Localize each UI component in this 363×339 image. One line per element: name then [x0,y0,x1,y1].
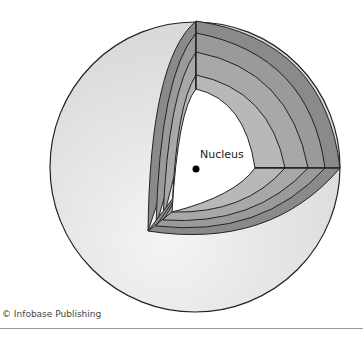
divider-rule [0,328,363,329]
nucleus-dot [193,166,200,173]
nucleus-label: Nucleus [200,148,244,161]
cutaway-sphere-diagram: Nucleus [0,0,363,339]
copyright-credit: © Infobase Publishing [2,309,101,319]
